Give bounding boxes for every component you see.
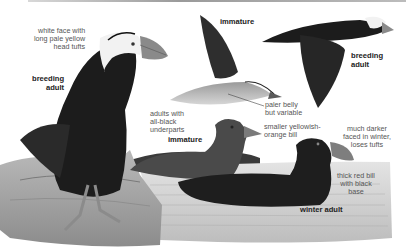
annotation-line: underparts — [150, 126, 184, 134]
annotation-smaller-bill: smaller yellowish- orange bill — [264, 123, 321, 139]
figure-title-line: immature — [168, 136, 202, 145]
annotation-darker-face: much darker faced in winter, loses tufts — [343, 125, 391, 150]
figure-title-line: winter adult — [300, 206, 343, 215]
annotation-thick-bill: thick red bill with black base — [337, 172, 375, 197]
label-swimming-immature: immature — [168, 136, 202, 145]
label-perched-breeding-adult: breeding adult — [32, 75, 64, 92]
annotation-line: base — [337, 188, 375, 196]
figure-title-line: adult — [32, 84, 64, 93]
annotation-line: orange bill — [264, 131, 321, 139]
annotation-paler-belly: paler belly but variable — [265, 101, 302, 117]
figure-title-line: adult — [351, 61, 383, 70]
field-guide-plate: white face with long pale yellow head tu… — [0, 0, 406, 251]
annotation-line: loses tufts — [343, 141, 391, 149]
figure-title-line: immature — [220, 18, 254, 27]
annotation-white-face: white face with long pale yellow head tu… — [34, 27, 85, 52]
annotation-line: head tufts — [34, 43, 85, 51]
label-winter-adult: winter adult — [300, 206, 343, 215]
annotation-line: but variable — [265, 109, 302, 117]
label-flying-immature: immature — [220, 18, 254, 27]
label-flying-breeding-adult: breeding adult — [351, 52, 383, 69]
annotation-all-black-underparts: adults with all-black underparts — [150, 110, 184, 135]
flying-immature-puffin — [170, 15, 282, 105]
